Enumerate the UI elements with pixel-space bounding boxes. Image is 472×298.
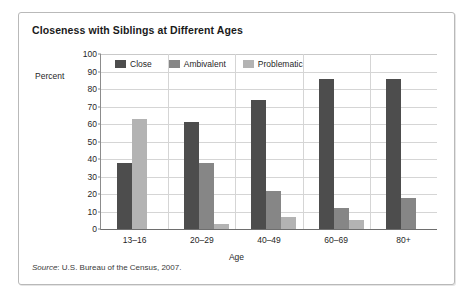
source-label: Source <box>32 263 57 272</box>
bar-ambivalent <box>266 191 281 230</box>
chart-title: Closeness with Siblings at Different Age… <box>32 24 243 36</box>
legend-entry-problematic: Problematic <box>243 59 303 69</box>
y-tick-label: 50 <box>88 137 97 147</box>
plot-area: 1009080706050403020100 13–1620–2940–4960… <box>100 54 437 230</box>
bar-problematic <box>214 224 229 229</box>
bar-group <box>370 54 453 229</box>
source-note: Source: U.S. Bureau of the Census, 2007. <box>32 263 181 272</box>
chart-legend: CloseAmbivalentProblematic <box>115 59 303 69</box>
bars-layer: 13–1620–2940–4960–6980+ <box>101 54 437 229</box>
bar-close <box>184 122 199 229</box>
y-tick-label: 40 <box>88 154 97 164</box>
x-tick-label: 20–29 <box>190 235 214 245</box>
x-tick-label: 60–69 <box>324 235 348 245</box>
bar-ambivalent <box>334 208 349 229</box>
bar-ambivalent <box>199 163 214 230</box>
x-axis-title: Age <box>19 252 454 262</box>
legend-swatch-icon <box>115 60 126 68</box>
x-tick-label: 13–16 <box>123 235 147 245</box>
bar-problematic <box>132 119 147 229</box>
bar-problematic <box>349 220 364 229</box>
y-tick-label: 30 <box>88 172 97 182</box>
legend-label: Close <box>130 59 152 69</box>
y-tick-label: 0 <box>92 224 97 234</box>
bar-close <box>117 163 132 230</box>
legend-entry-ambivalent: Ambivalent <box>169 59 226 69</box>
y-tick-label: 100 <box>83 49 97 59</box>
y-axis-title: Percent <box>35 71 64 81</box>
y-tick-label: 60 <box>88 119 97 129</box>
y-tick-label: 80 <box>88 84 97 94</box>
bar-problematic <box>281 217 296 229</box>
bar-close <box>386 79 401 230</box>
y-tick-label: 70 <box>88 102 97 112</box>
bar-close <box>319 79 334 230</box>
x-tick-label: 40–49 <box>257 235 281 245</box>
legend-label: Ambivalent <box>184 59 226 69</box>
bar-ambivalent <box>401 198 416 230</box>
x-tick-label: 80+ <box>396 235 410 245</box>
chart-card: Closeness with Siblings at Different Age… <box>18 12 455 285</box>
legend-swatch-icon <box>243 60 254 68</box>
y-tick-label: 90 <box>88 67 97 77</box>
y-tick-label: 10 <box>88 207 97 217</box>
y-tick-label: 20 <box>88 189 97 199</box>
legend-entry-close: Close <box>115 59 152 69</box>
legend-label: Problematic <box>258 59 303 69</box>
legend-swatch-icon <box>169 60 180 68</box>
bar-close <box>251 100 266 230</box>
source-text: : U.S. Bureau of the Census, 2007. <box>57 263 181 272</box>
